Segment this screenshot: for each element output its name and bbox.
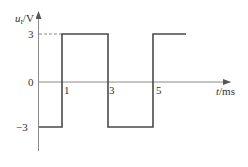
- y-axis-label: uI/V: [15, 12, 34, 26]
- x-axis-label: t/ms: [216, 85, 235, 97]
- y-tick-neg3: −3: [16, 121, 28, 133]
- x-tick-1: 1: [64, 84, 70, 96]
- y-tick-3: 3: [28, 28, 34, 40]
- y-tick-0: 0: [28, 76, 34, 88]
- x-tick-3: 3: [109, 84, 115, 96]
- square-wave-signal: [39, 34, 186, 127]
- x-tick-5: 5: [156, 84, 162, 96]
- square-wave-figure: uI/V 3 0 −3 1 3 5 t/ms: [0, 0, 248, 167]
